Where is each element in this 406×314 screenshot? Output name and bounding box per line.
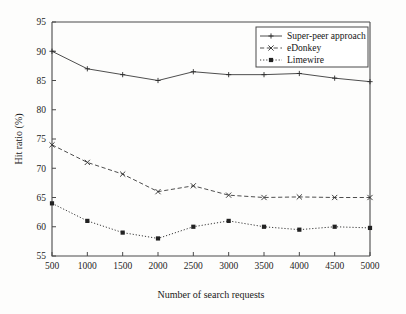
- data-point: [85, 219, 89, 223]
- x-axis-title: Number of search requests: [158, 289, 265, 300]
- legend-label: Super-peer approach: [287, 31, 366, 41]
- data-point: [121, 231, 125, 235]
- data-point: [50, 201, 54, 205]
- x-tick-label: 3500: [255, 261, 274, 271]
- x-tick-label: 1000: [78, 261, 97, 271]
- x-tick-label: 1500: [113, 261, 132, 271]
- chart-legend[interactable]: Super-peer approacheDonkeyLimewire: [256, 27, 368, 67]
- data-point: [156, 236, 160, 240]
- data-point: [262, 225, 266, 229]
- legend-marker-sample: [269, 58, 273, 62]
- data-point: [368, 226, 372, 230]
- y-tick-label: 85: [37, 76, 47, 86]
- y-tick-label: 95: [37, 17, 47, 27]
- y-tick-label: 90: [37, 47, 47, 57]
- x-tick-label: 4500: [325, 261, 344, 271]
- x-tick-label: 3000: [219, 261, 238, 271]
- legend-label: Limewire: [287, 55, 324, 65]
- y-tick-label: 75: [37, 134, 47, 144]
- x-tick-label: 4000: [290, 261, 309, 271]
- data-point: [333, 225, 337, 229]
- x-tick-label: 5000: [361, 261, 380, 271]
- series-limewire: [50, 201, 372, 240]
- legend-label: eDonkey: [287, 43, 322, 53]
- y-axis-ticks: 556065707580859095: [37, 17, 57, 261]
- data-point: [297, 228, 301, 232]
- x-tick-label: 2500: [184, 261, 203, 271]
- series-layer: [49, 49, 372, 241]
- series-path: [52, 145, 370, 198]
- x-tick-label: 500: [45, 261, 60, 271]
- series-path: [52, 203, 370, 238]
- data-point: [227, 219, 231, 223]
- y-tick-label: 80: [37, 105, 47, 115]
- y-tick-label: 65: [37, 193, 47, 203]
- series-edonkey: [49, 142, 372, 200]
- line-chart: 556065707580859095 500100015002000250030…: [0, 0, 406, 314]
- data-point: [191, 225, 195, 229]
- y-tick-label: 70: [37, 164, 47, 174]
- x-tick-label: 2000: [149, 261, 168, 271]
- y-tick-label: 55: [37, 251, 47, 261]
- y-axis-title: Hit ratio (%): [13, 113, 25, 164]
- figure-container: 556065707580859095 500100015002000250030…: [0, 0, 406, 314]
- x-axis-ticks: 500100015002000250030003500400045005000: [45, 252, 380, 271]
- y-tick-label: 60: [37, 222, 47, 232]
